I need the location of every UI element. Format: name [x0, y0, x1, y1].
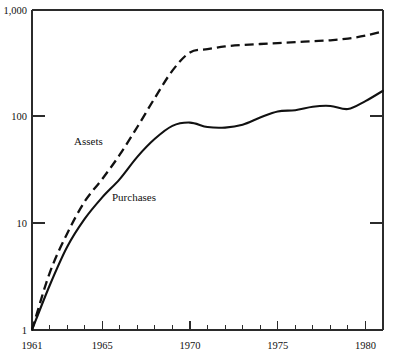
x-axis-ticks [32, 321, 365, 330]
y-axis-labels: 1,000 100 10 1 [3, 5, 27, 336]
y-axis-ticks [32, 116, 383, 223]
plot-frame [32, 10, 383, 330]
series-line-purchases [32, 91, 383, 330]
y-tick-label-100: 100 [11, 111, 27, 122]
series-line-assets [32, 31, 383, 330]
log-line-chart: 1,000 100 10 1 [0, 0, 405, 357]
x-tick-label-1965: 1965 [92, 340, 113, 351]
x-tick-label-1961: 1961 [22, 340, 43, 351]
y-tick-label-10: 10 [17, 218, 28, 229]
series-annotation-assets: Assets [74, 135, 103, 147]
series-annotation-purchases: Purchases [112, 191, 156, 203]
y-tick-label-1: 1 [22, 325, 27, 336]
x-tick-label-1970: 1970 [179, 340, 200, 351]
chart-canvas: 1,000 100 10 1 [0, 0, 405, 357]
x-tick-label-1975: 1975 [267, 340, 288, 351]
y-tick-label-1000: 1,000 [3, 5, 27, 16]
x-tick-label-1980: 1980 [355, 340, 376, 351]
x-axis-labels: 1961 1965 1970 1975 1980 [22, 340, 376, 351]
